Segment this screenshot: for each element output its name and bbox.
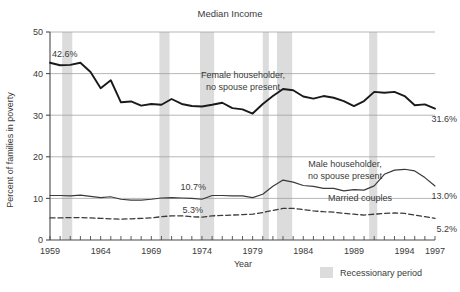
- recession-band-0: [62, 32, 72, 240]
- recession-band-3: [263, 32, 269, 240]
- point-label-31-6: 31.6%: [431, 114, 457, 124]
- median-income-poverty-line-chart: Median Income 01020304050 19591964196919…: [0, 0, 460, 292]
- annotation-female-line1: Female householder,: [201, 70, 285, 80]
- x-tick-label-1959: 1959: [40, 246, 60, 256]
- x-tick-label-1994: 1994: [395, 246, 415, 256]
- x-tick-label-1984: 1984: [293, 246, 313, 256]
- y-tick-label-10: 10: [33, 194, 43, 204]
- legend-swatch-recession: [320, 267, 333, 278]
- annotation-male-line2: no spouse present: [308, 171, 383, 181]
- x-tick-label-1979: 1979: [243, 246, 263, 256]
- chart-container: Median Income 01020304050 19591964196919…: [0, 0, 460, 292]
- y-axis-label: Percent of families in poverty: [5, 92, 15, 208]
- recession-band-1: [159, 32, 169, 240]
- y-tick-label-50: 50: [33, 27, 43, 37]
- y-tick-label-0: 0: [38, 235, 43, 245]
- y-tick-label-40: 40: [33, 69, 43, 79]
- y-tick-label-30: 30: [33, 111, 43, 121]
- annotation-male-line1: Male householder,: [308, 159, 382, 169]
- legend-label-recession: Recessionary period: [340, 268, 422, 278]
- x-tick-label-1964: 1964: [91, 246, 111, 256]
- annotation-married-line1: Married couples: [328, 193, 393, 203]
- x-axis-label: Year: [234, 259, 252, 269]
- x-tick-label-1997: 1997: [425, 246, 445, 256]
- point-label-42-6: 42.6%: [52, 49, 78, 59]
- annotation-married-couples: Married couples: [328, 193, 393, 203]
- point-label-13-0: 13.0%: [431, 191, 457, 201]
- x-tick-label-1989: 1989: [344, 246, 364, 256]
- point-label-5-3: 5.3%: [182, 205, 203, 215]
- point-label-10-7: 10.7%: [180, 182, 206, 192]
- chart-title: Median Income: [198, 8, 263, 19]
- y-tick-label-20: 20: [33, 152, 43, 162]
- x-tick-label-1969: 1969: [141, 246, 161, 256]
- recession-band-5: [369, 32, 377, 240]
- annotation-female-line2: no spouse present: [206, 82, 281, 92]
- point-label-5-2: 5.2%: [436, 224, 457, 234]
- x-tick-label-1974: 1974: [192, 246, 212, 256]
